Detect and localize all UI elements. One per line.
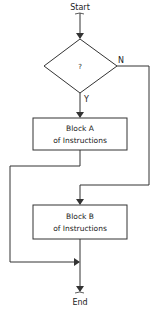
block-a-line1: Block A [66, 124, 95, 133]
block-b [33, 205, 127, 239]
end-label: End [72, 298, 87, 307]
decision-label: ? [78, 63, 82, 71]
start-label: Start [70, 3, 90, 12]
block-b-line2: of Instructions [53, 224, 107, 233]
no-label: N [118, 56, 124, 65]
block-b-line1: Block B [66, 212, 94, 221]
yes-label: Y [83, 95, 89, 104]
flowchart: Start ? N Y Block A of Instructions Bloc… [0, 0, 156, 312]
block-a [33, 118, 127, 150]
block-a-line2: of Instructions [53, 136, 107, 145]
end-terminator [75, 292, 84, 293]
